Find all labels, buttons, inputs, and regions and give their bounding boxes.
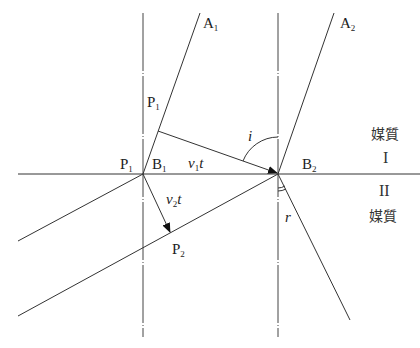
label-v1t: v1t — [188, 155, 204, 173]
v1t-arrow — [158, 131, 277, 173]
medium-lower-numeral: II — [379, 182, 390, 199]
angle-r-arc — [278, 186, 285, 188]
label-p1-left: P1 — [120, 156, 133, 174]
medium-lower-name: 媒質 — [369, 208, 397, 224]
medium-upper-numeral: I — [383, 149, 388, 166]
label-angle-i: i — [248, 128, 252, 144]
label-p1-upper: P1 — [147, 94, 160, 112]
figure-caption-clipped — [0, 340, 420, 348]
incident-ray-a2 — [278, 13, 334, 174]
label-b2: B2 — [302, 156, 317, 174]
label-angle-r: r — [285, 209, 291, 225]
angle-r-arc-2 — [278, 189, 286, 191]
refraction-diagram: A1 A2 P1 P1 B1 B2 P2 v1t v2t i r 媒質 I II… — [0, 0, 420, 348]
label-a2: A2 — [340, 15, 355, 33]
refracted-wavefront — [18, 174, 278, 316]
label-p2: P2 — [172, 241, 185, 259]
label-b1: B1 — [152, 156, 167, 174]
label-v2t: v2t — [166, 191, 182, 209]
refracted-ray-left — [18, 174, 143, 241]
medium-upper-name: 媒質 — [371, 126, 399, 142]
label-a1: A1 — [203, 15, 218, 33]
refracted-ray — [278, 174, 350, 320]
